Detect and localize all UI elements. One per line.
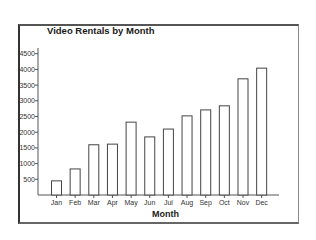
y-tick-label: 4500 — [19, 50, 35, 57]
x-tick-label: Apr — [107, 199, 119, 207]
y-tick-label: 1000 — [19, 160, 35, 167]
x-tick-label: Sep — [199, 199, 212, 207]
bar-may — [126, 122, 136, 195]
x-tick-label: Dec — [255, 199, 268, 206]
bar-dec — [257, 68, 267, 195]
y-tick-label: 500 — [23, 176, 35, 183]
y-tick-label: 1500 — [19, 144, 35, 151]
bar-sep — [201, 110, 211, 195]
bar-apr — [107, 144, 117, 195]
bars — [52, 68, 267, 195]
bar-jun — [145, 137, 155, 195]
y-tick-label: 3500 — [19, 82, 35, 89]
bar-aug — [182, 116, 192, 195]
x-tick-label: Jul — [164, 199, 173, 206]
x-tick-label: Nov — [237, 199, 250, 206]
bar-jan — [52, 181, 62, 195]
x-tick-label: May — [124, 199, 138, 207]
bar-feb — [70, 169, 80, 195]
x-tick-label: Jan — [51, 199, 62, 206]
bar-oct — [219, 106, 229, 195]
x-tick-label: Aug — [181, 199, 194, 207]
y-tick-label: 4000 — [19, 66, 35, 73]
bar-jul — [163, 129, 173, 195]
x-tick-label: Mar — [88, 199, 101, 206]
bar-mar — [89, 145, 99, 195]
y-tick-label: 2500 — [19, 113, 35, 120]
y-tick-label: 2000 — [19, 129, 35, 136]
x-tick-label: Oct — [219, 199, 230, 206]
x-tick-label: Jun — [144, 199, 155, 206]
x-tick-label: Feb — [69, 199, 81, 206]
bar-chart-plot: 50010001500200025003000350040004500JanFe… — [0, 0, 316, 240]
y-tick-label: 3000 — [19, 97, 35, 104]
bar-nov — [238, 79, 248, 195]
